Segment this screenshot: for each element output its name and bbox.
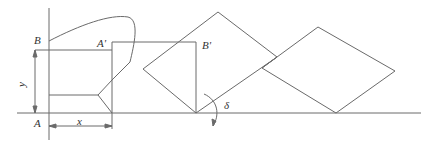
label-A: A [34,118,41,129]
label-x: x [77,116,82,127]
rotated-square-2 [262,27,395,113]
label-delta: δ [224,100,229,111]
x-arrow-left [49,124,56,128]
diagram: B A' B' y A x δ [0,0,432,149]
label-y: y [16,82,27,87]
label-B: B [34,35,41,46]
y-arrow-down [33,106,37,113]
label-A-prime: A' [97,38,106,49]
v-shape [98,80,112,113]
diagram-canvas [0,0,432,149]
label-B-prime: B' [202,40,211,51]
y-arrow-up [33,50,37,57]
x-arrow-right [105,124,112,128]
overlap-line [262,57,277,68]
trajectory-curve [49,17,135,80]
